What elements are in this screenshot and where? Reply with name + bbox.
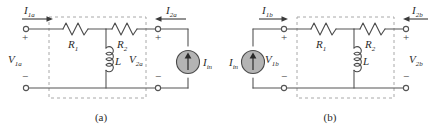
polarity-a-port2-minus: −: [155, 70, 161, 82]
label-a-port1-voltage: V1a: [8, 53, 22, 68]
polarity-a-port2-plus: +: [155, 31, 161, 43]
polarity-b-port2-minus: −: [403, 70, 409, 82]
label-b-port1-current: I1b: [261, 4, 273, 19]
label-b-inductor: L: [362, 55, 369, 67]
circuit-b: I1b I2b + − V1b + − V2b R1 R2 L Iin (b): [228, 4, 428, 124]
caption-b: (b): [324, 111, 337, 124]
label-a-port2-current: I2a: [165, 4, 177, 19]
current-arrow-a-port1: [22, 16, 53, 22]
circuit-canvas: I1a I2a + − V1a + − V2a R1 R2 L Iin (a): [0, 0, 434, 130]
label-a-resistor-2: R2: [116, 38, 128, 53]
resistor-1-b-symbol: [311, 23, 336, 35]
label-b-port2-voltage: V2b: [409, 53, 423, 68]
terminal-b-port1-bottom: [281, 85, 286, 90]
terminal-a-port2-bottom: [155, 85, 160, 90]
current-arrow-b-port1: [259, 16, 288, 22]
polarity-a-port1-minus: −: [22, 70, 28, 82]
circuit-a: I1a I2a + − V1a + − V2a R1 R2 L Iin (a): [8, 4, 213, 124]
label-a-resistor-1: R1: [67, 38, 78, 53]
polarity-a-port1-plus: +: [22, 31, 28, 43]
resistor-2-a-symbol: [112, 23, 137, 35]
polarity-b-port1-minus: −: [281, 70, 287, 82]
label-b-resistor-2: R2: [364, 38, 376, 53]
label-b-current-source: Iin: [228, 56, 239, 71]
resistor-1-a-symbol: [63, 23, 88, 35]
caption-a: (a): [95, 111, 108, 124]
current-source-b: [242, 51, 265, 74]
label-a-port1-current: I1a: [23, 4, 35, 19]
label-b-resistor-1: R1: [315, 38, 326, 53]
label-a-current-source: Iin: [202, 56, 213, 71]
label-a-port2-voltage: V2a: [129, 53, 143, 68]
label-a-inductor: L: [114, 55, 121, 67]
label-b-port1-voltage: V1b: [265, 53, 279, 68]
current-source-a: [177, 51, 200, 74]
resistor-2-b-symbol: [360, 23, 385, 35]
circuit-figure: I1a I2a + − V1a + − V2a R1 R2 L Iin (a): [0, 0, 434, 130]
polarity-b-port2-plus: +: [403, 31, 409, 43]
terminal-b-port2-bottom: [403, 85, 408, 90]
inductor-b-symbol: [354, 47, 361, 72]
label-b-port2-current: I2b: [411, 4, 423, 19]
inductor-a-symbol: [106, 47, 113, 72]
polarity-b-port1-plus: +: [281, 31, 287, 43]
terminal-a-port1-bottom: [23, 85, 28, 90]
